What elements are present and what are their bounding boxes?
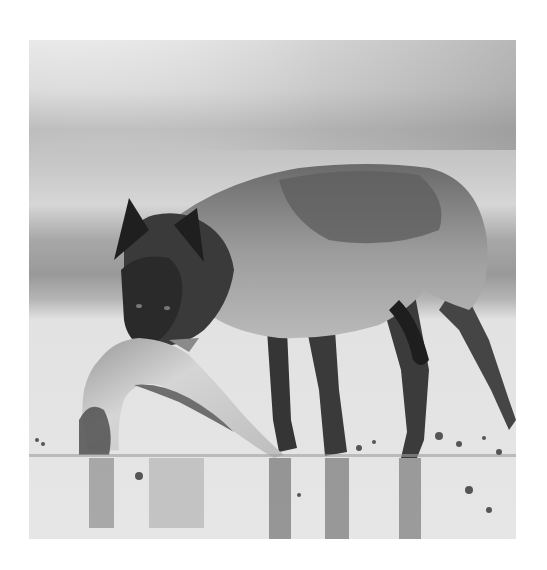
cloud-band [29,40,516,150]
wolf-photograph [29,40,516,539]
water-line [29,454,516,457]
photo-illustration [29,40,516,539]
